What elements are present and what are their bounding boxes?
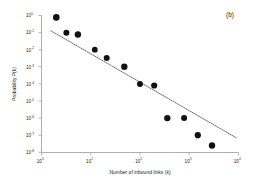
data-point xyxy=(209,142,215,148)
data-point xyxy=(137,81,143,87)
data-point xyxy=(181,115,187,121)
scatter-plot-loglog: (b) 100 10-1 10-2 10-3 10-4 10-5 10-6 10… xyxy=(0,0,264,181)
data-point xyxy=(121,64,127,70)
figure-panel-b: (b) 100 10-1 10-2 10-3 10-4 10-5 10-6 10… xyxy=(0,0,264,181)
data-point xyxy=(92,47,98,53)
data-point xyxy=(104,55,110,61)
data-point xyxy=(164,115,170,121)
data-point xyxy=(75,31,81,37)
y-axis-title: Probability P(k) xyxy=(11,67,17,101)
panel-label: (b) xyxy=(226,11,234,19)
data-point xyxy=(63,30,69,36)
data-point xyxy=(151,82,157,88)
data-point xyxy=(195,132,201,138)
x-axis-title: Number of inbound links (k) xyxy=(109,169,170,175)
figure-background xyxy=(0,0,264,181)
data-point xyxy=(53,14,60,21)
